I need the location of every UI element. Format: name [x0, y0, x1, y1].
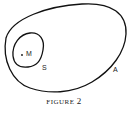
point-M-dot — [21, 54, 23, 56]
caption-word: FIGURE — [46, 98, 74, 106]
caption-number: 2 — [77, 96, 82, 106]
set-A-label: A — [113, 66, 118, 73]
outer-set-A-boundary — [5, 4, 126, 92]
figure-caption: FIGURE 2 — [0, 96, 128, 106]
point-M-label: M — [26, 50, 32, 57]
set-S-label: S — [42, 64, 47, 71]
